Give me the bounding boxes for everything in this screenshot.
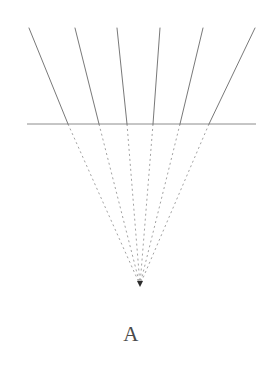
figure-background (0, 0, 262, 375)
figure-caption-label: A (0, 322, 262, 346)
perspective-diagram: A (0, 0, 262, 375)
figure-canvas (0, 0, 262, 375)
